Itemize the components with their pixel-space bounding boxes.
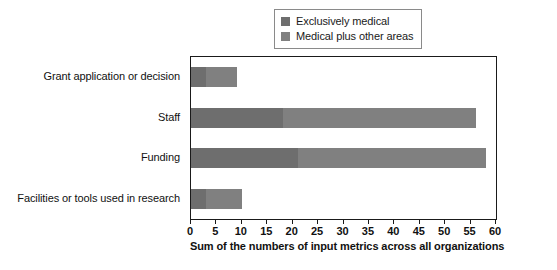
- x-axis-title: Sum of the numbers of input metrics acro…: [190, 240, 496, 253]
- tick-label: 25: [311, 225, 323, 237]
- tick-mark: [393, 219, 394, 224]
- tick-mark: [241, 219, 242, 224]
- tick-label: 50: [438, 225, 450, 237]
- tick-mark: [317, 219, 318, 224]
- legend-label-medical-plus-other-areas: Medical plus other areas: [296, 31, 413, 42]
- legend-label-exclusively-medical: Exclusively medical: [296, 16, 389, 27]
- tick-label: 60: [489, 225, 501, 237]
- tick-label: 20: [286, 225, 298, 237]
- bar-row: [191, 189, 242, 209]
- tick-mark: [444, 219, 445, 224]
- legend-item-exclusively-medical: Exclusively medical: [281, 14, 413, 29]
- tick-mark: [368, 219, 369, 224]
- category-label: Funding: [141, 151, 180, 163]
- x-axis-ticks: 051015202530354045505560: [190, 219, 496, 239]
- bar-segment: [206, 189, 242, 209]
- plot-area: [190, 56, 497, 220]
- tick-mark: [343, 219, 344, 224]
- chart-legend: Exclusively medical Medical plus other a…: [274, 9, 422, 49]
- tick-label: 45: [413, 225, 425, 237]
- bar-segment: [191, 67, 206, 87]
- category-axis-labels: Grant application or decisionStaffFundin…: [0, 56, 185, 218]
- tick-label: 40: [387, 225, 399, 237]
- tick-label: 55: [463, 225, 475, 237]
- legend-swatch-icon-exclusively-medical: [281, 17, 290, 26]
- legend-item-medical-plus-other-areas: Medical plus other areas: [281, 29, 413, 44]
- bar-segment: [191, 148, 298, 168]
- category-label: Grant application or decision: [43, 70, 180, 82]
- bar-segment: [283, 108, 476, 128]
- tick-label: 15: [260, 225, 272, 237]
- tick-mark: [215, 219, 216, 224]
- bar-chart-figure: Exclusively medical Medical plus other a…: [0, 0, 557, 270]
- category-label: Staff: [158, 111, 180, 123]
- legend-swatch-icon-medical-plus-other-areas: [281, 32, 290, 41]
- bar-row: [191, 67, 237, 87]
- tick-label: 5: [212, 225, 218, 237]
- tick-mark: [495, 219, 496, 224]
- bar-row: [191, 108, 476, 128]
- tick-label: 30: [336, 225, 348, 237]
- bar-segment: [191, 189, 206, 209]
- tick-mark: [419, 219, 420, 224]
- tick-label: 0: [187, 225, 193, 237]
- tick-label: 10: [235, 225, 247, 237]
- tick-mark: [190, 219, 191, 224]
- tick-mark: [470, 219, 471, 224]
- bar-row: [191, 148, 486, 168]
- tick-mark: [266, 219, 267, 224]
- tick-label: 35: [362, 225, 374, 237]
- category-label: Facilities or tools used in research: [17, 192, 180, 204]
- tick-mark: [292, 219, 293, 224]
- bar-segment: [191, 108, 283, 128]
- bar-segment: [206, 67, 237, 87]
- bar-segment: [298, 148, 486, 168]
